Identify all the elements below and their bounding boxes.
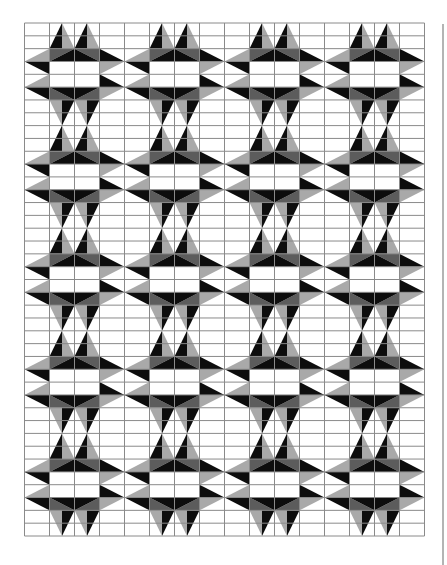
quilt-background bbox=[0, 0, 447, 565]
quilt-pattern bbox=[0, 0, 447, 565]
quilt-grid bbox=[25, 23, 425, 536]
page-edge-line bbox=[442, 24, 444, 565]
